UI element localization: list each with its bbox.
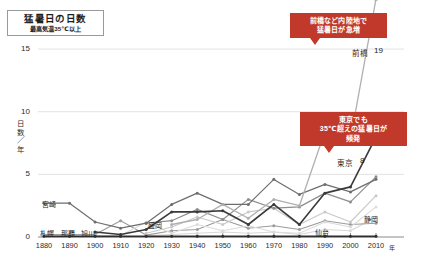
callout-tokyo-line1: 東京でも — [305, 115, 402, 124]
x-axis-unit: 年 — [389, 243, 395, 252]
chart-page: 猛暑日の日数 最高気温35℃以上 日 数 ／ 年 0 5 10 15 18801… — [0, 0, 423, 264]
y-axis-label-line3: 年 — [17, 145, 24, 154]
callout-tokyo-line2: 35℃超えの猛暑日が — [305, 124, 402, 133]
callout-tokyo-tail — [324, 146, 334, 153]
y-axis-label: 日 数 ／ 年 — [14, 120, 26, 154]
callout-tokyo-line3: 頻発 — [305, 134, 402, 143]
series-label-shizuoka: 静岡 — [364, 214, 378, 224]
series-label-asahikawa: 旭川 — [81, 228, 95, 238]
series-label-naha: 那覇 — [61, 228, 75, 238]
series-label-sendai: 仙台 — [315, 227, 329, 237]
series-label-morioka: 盛岡 — [148, 220, 162, 230]
series-label-maebashi: 前橋 — [352, 47, 368, 58]
y-tick-0: 0 — [14, 232, 30, 241]
series-label-tokyo: 東京 — [337, 157, 353, 168]
x-tick-2010: 2010 — [361, 241, 391, 250]
y-tick-5: 5 — [14, 169, 30, 178]
callout-tokyo: 東京でも 35℃超えの猛暑日が 頻発 — [300, 112, 407, 146]
y-tick-10: 10 — [14, 107, 30, 116]
series-label-miyazaki: 宮崎 — [42, 199, 56, 209]
callout-maebashi-line1: 前橋など内陸地で — [295, 16, 382, 25]
callout-maebashi-tail — [310, 38, 320, 45]
y-axis-label-slash: ／ — [15, 137, 27, 146]
y-tick-15: 15 — [14, 44, 30, 53]
callout-maebashi: 前橋など内陸地で 猛暑日が急増 — [290, 13, 387, 38]
series-label-sapporo: 札幌 — [40, 228, 54, 238]
series-value-tokyo: 8 — [360, 156, 364, 165]
callout-maebashi-line2: 猛暑日が急増 — [295, 25, 382, 34]
series-value-maebashi: 19 — [374, 46, 383, 55]
